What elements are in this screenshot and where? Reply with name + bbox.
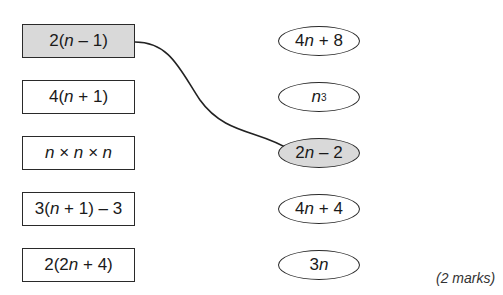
expression-text: + 4: [314, 199, 343, 219]
expression-text: + 1) – 3: [59, 199, 122, 219]
variable-text: n: [311, 87, 320, 107]
exponent-text: 3: [321, 92, 327, 103]
expression-text: + 1): [74, 87, 109, 107]
variable-text: n: [305, 199, 314, 219]
expression-oval-1[interactable]: 4n + 8: [278, 26, 360, 56]
expression-text: 3: [310, 255, 319, 275]
variable-text: n × n × n: [45, 143, 112, 163]
expression-text: 4: [295, 31, 304, 51]
expression-oval-4[interactable]: 4n + 4: [278, 194, 360, 224]
expression-box-4[interactable]: 3(n + 1) – 3: [22, 192, 135, 226]
expression-box-3[interactable]: n × n × n: [22, 136, 135, 170]
expression-oval-2[interactable]: n3: [278, 82, 360, 112]
marks-label: (2 marks): [436, 270, 495, 286]
expression-text: 2: [295, 143, 304, 163]
variable-text: n: [64, 31, 73, 51]
expression-text: + 8: [314, 31, 343, 51]
expression-text: 4(: [49, 87, 64, 107]
expression-text: – 2: [314, 143, 342, 163]
expression-text: + 4): [78, 255, 113, 275]
expression-text: 2(2: [44, 255, 69, 275]
expression-text: 3(: [35, 199, 50, 219]
expression-text: – 1): [74, 31, 108, 51]
variable-text: n: [305, 31, 314, 51]
expression-box-2[interactable]: 4(n + 1): [22, 80, 135, 114]
variable-text: n: [69, 255, 78, 275]
variable-text: n: [319, 255, 328, 275]
expression-text: 2(: [49, 31, 64, 51]
variable-text: n: [64, 87, 73, 107]
variable-text: n: [50, 199, 59, 219]
variable-text: n: [305, 143, 314, 163]
expression-box-5[interactable]: 2(2n + 4): [22, 248, 135, 282]
expression-oval-3[interactable]: 2n – 2: [278, 138, 360, 168]
expression-box-1[interactable]: 2(n – 1): [22, 24, 135, 58]
expression-oval-5[interactable]: 3n: [278, 250, 360, 280]
expression-text: 4: [295, 199, 304, 219]
